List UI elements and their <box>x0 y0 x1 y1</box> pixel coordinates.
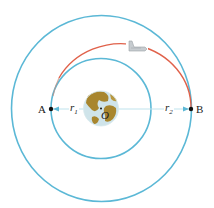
point-a <box>49 107 53 111</box>
transfer-arc <box>59 44 191 109</box>
label-r2: r2 <box>164 102 174 113</box>
label-a: A <box>38 104 46 115</box>
orbit-diagram <box>0 0 214 208</box>
label-r1: r1 <box>69 102 79 113</box>
label-b: B <box>196 104 203 115</box>
arrowhead-a-icon <box>53 107 59 112</box>
label-r1-sub: 1 <box>74 108 78 116</box>
point-b <box>189 107 193 111</box>
label-r2-sub: 2 <box>169 108 173 116</box>
label-o: O <box>101 110 109 121</box>
arrowhead-b-icon <box>183 107 189 112</box>
